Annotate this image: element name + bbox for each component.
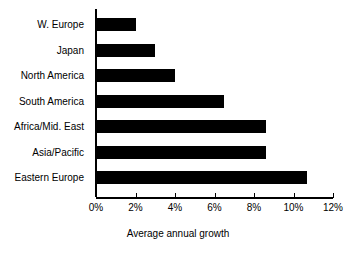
plot-area [96, 14, 333, 193]
tick-mark-4pct [175, 193, 176, 198]
tick-label-10pct: 10% [283, 202, 303, 214]
category-label-w-europe: W. Europe [37, 18, 84, 31]
category-label-asia-pacific: Asia/Pacific [32, 146, 84, 159]
tick-label-12pct: 12% [323, 202, 343, 214]
tick-label-2pct: 2% [128, 202, 142, 214]
category-label-eastern-europe: Eastern Europe [15, 171, 85, 184]
tick-mark-6pct [215, 193, 216, 198]
tick-mark-2pct [136, 193, 137, 198]
tick-mark-12pct [333, 193, 334, 198]
bar-north-america [96, 69, 175, 82]
bar-africa-mid-east [96, 120, 266, 133]
value-axis-line [96, 197, 333, 199]
tick-label-0pct: 0% [89, 202, 103, 214]
bar-w-europe [96, 18, 136, 31]
tick-mark-0pct [96, 193, 97, 198]
category-label-north-america: North America [21, 69, 84, 82]
value-axis-title: Average annual growth [0, 228, 356, 240]
tick-label-4pct: 4% [168, 202, 182, 214]
category-label-africa-mid-east: Africa/Mid. East [14, 120, 84, 133]
tick-label-8pct: 8% [247, 202, 261, 214]
bar-eastern-europe [96, 171, 307, 184]
tick-mark-10pct [294, 193, 295, 198]
category-label-south-america: South America [19, 95, 84, 108]
tick-label-6pct: 6% [207, 202, 221, 214]
category-label-japan: Japan [57, 44, 84, 57]
category-axis: W. EuropeJapanNorth AmericaSouth America… [0, 14, 90, 193]
bar-japan [96, 44, 155, 57]
bar-chart-figure: W. EuropeJapanNorth AmericaSouth America… [0, 0, 356, 256]
tick-mark-8pct [254, 193, 255, 198]
bar-asia-pacific [96, 146, 266, 159]
bar-south-america [96, 95, 224, 108]
